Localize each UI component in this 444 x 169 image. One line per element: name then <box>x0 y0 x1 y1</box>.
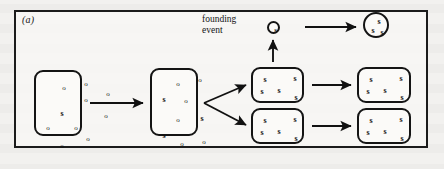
allele-o: o <box>62 85 66 92</box>
allele-s: s <box>60 110 63 118</box>
allele-s: s <box>366 88 369 96</box>
allele-o: o <box>176 117 180 124</box>
allele-s: s <box>274 26 277 33</box>
source-population-box: oooosooooo <box>34 70 82 136</box>
allele-o: o <box>84 97 88 104</box>
allele-s: s <box>294 94 297 102</box>
allele-s: s <box>162 96 165 104</box>
allele-s: s <box>383 128 386 136</box>
allele-s: s <box>371 27 374 35</box>
allele-o: o <box>202 139 206 146</box>
allele-o: o <box>184 98 188 105</box>
allele-o: o <box>176 81 180 88</box>
allele-s: s <box>162 132 165 140</box>
allele-s: s <box>377 18 380 26</box>
allele-s: s <box>369 76 372 84</box>
panel-label: (a) <box>22 14 34 25</box>
allele-s: s <box>369 117 372 125</box>
final-population-lower-box: sssss <box>357 108 411 144</box>
founding-event-caption-line2: event <box>202 25 264 36</box>
allele-o: o <box>74 125 78 132</box>
founding-event-caption: founding event <box>202 14 264 36</box>
allele-o: o <box>84 81 88 88</box>
allele-o: o <box>106 91 110 98</box>
allele-s: s <box>380 29 383 37</box>
final-population-upper-box: sssss <box>357 67 411 103</box>
descendant-population-lower-box: sssss <box>251 108 304 144</box>
allele-o: o <box>198 77 202 84</box>
allele-s: s <box>263 117 266 125</box>
descendant-population-upper-box: sssss <box>251 67 304 103</box>
intermediate-population-box: oosoossoo <box>150 68 198 136</box>
new-population-circle: sss <box>363 12 389 38</box>
founding-event-caption-line1: founding <box>202 14 264 25</box>
allele-s: s <box>294 135 297 143</box>
allele-s: s <box>399 75 402 83</box>
allele-s: s <box>260 129 263 137</box>
allele-s: s <box>400 94 403 102</box>
founder-individual-circle: s <box>267 21 280 34</box>
allele-s: s <box>263 76 266 84</box>
allele-s: s <box>293 116 296 124</box>
allele-o: o <box>180 141 184 148</box>
allele-s: s <box>400 135 403 143</box>
allele-s: s <box>383 87 386 95</box>
allele-o: o <box>46 125 50 132</box>
allele-s: s <box>277 87 280 95</box>
allele-s: s <box>366 129 369 137</box>
allele-s: s <box>260 88 263 96</box>
allele-o: o <box>60 143 64 150</box>
allele-s: s <box>277 128 280 136</box>
allele-o: o <box>86 136 90 143</box>
allele-s: s <box>399 116 402 124</box>
allele-o: o <box>104 113 108 120</box>
allele-s: s <box>293 75 296 83</box>
allele-s: s <box>200 115 203 123</box>
